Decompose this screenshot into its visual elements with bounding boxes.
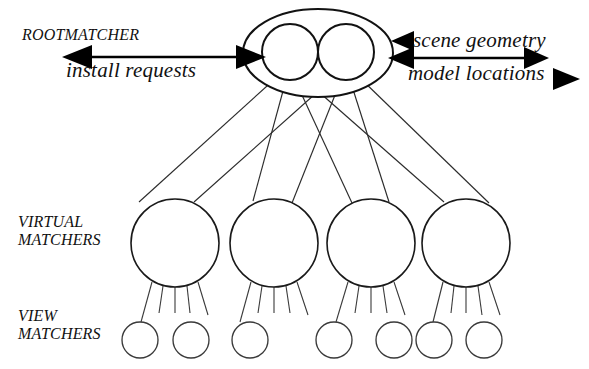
view-matcher-5[interactable] xyxy=(376,322,412,358)
label-scene-geometry: scene geometry xyxy=(413,29,546,53)
label-virtual-line2: MATCHERS xyxy=(18,231,101,249)
scene-geometry-arrow xyxy=(391,31,414,51)
virtual-matchers-group[interactable] xyxy=(131,199,510,287)
label-virtual-matchers: VIRTUAL MATCHERS xyxy=(18,213,101,249)
arrow-head-outbound xyxy=(553,68,580,90)
label-rootmatcher: ROOTMATCHER xyxy=(22,26,139,44)
view-matcher-1[interactable] xyxy=(122,322,158,358)
virtual-to-view-links xyxy=(141,282,500,322)
label-view-line1: VIEW xyxy=(18,307,101,325)
virtual-matcher-3[interactable] xyxy=(327,199,415,287)
outbound-arrow-marker xyxy=(553,68,580,90)
root-node-left-circle[interactable] xyxy=(262,24,318,80)
label-virtual-line1: VIRTUAL xyxy=(18,213,101,231)
virtual-matcher-2[interactable] xyxy=(230,199,318,287)
arrow-head-scene-left xyxy=(391,31,414,51)
view-matcher-2[interactable] xyxy=(173,322,209,358)
view-matcher-3[interactable] xyxy=(232,322,268,358)
root-matcher-group[interactable] xyxy=(243,9,393,97)
diagram-canvas: ROOTMATCHER install requests scene geome… xyxy=(0,0,589,369)
virtual-matcher-1[interactable] xyxy=(131,199,219,287)
label-model-locations: model locations xyxy=(408,62,545,86)
label-install-requests: install requests xyxy=(66,59,196,83)
virtual-matcher-4[interactable] xyxy=(422,199,510,287)
label-view-matchers: VIEW MATCHERS xyxy=(18,307,101,343)
view-matcher-6[interactable] xyxy=(416,322,452,358)
label-view-line2: MATCHERS xyxy=(18,325,101,343)
view-matcher-4[interactable] xyxy=(316,322,352,358)
root-node-right-circle[interactable] xyxy=(318,24,374,80)
view-matchers-group[interactable] xyxy=(122,322,502,358)
view-matcher-7[interactable] xyxy=(466,322,502,358)
